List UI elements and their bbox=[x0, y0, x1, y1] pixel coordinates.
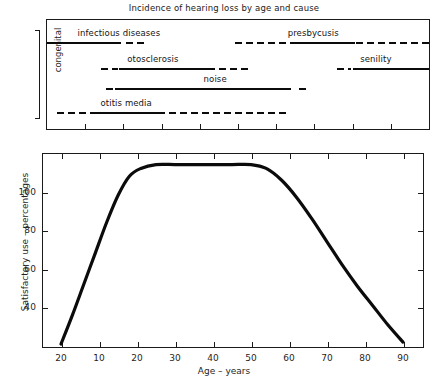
bottom-chart-x-tick-label: 70 bbox=[321, 353, 333, 363]
bottom-chart-satisfactory-use: Satisfactory use – percentages Age – yea… bbox=[0, 142, 448, 388]
bottom-chart-x-tick-label: 50 bbox=[245, 353, 257, 363]
bottom-chart-x-axis-label: Age – years bbox=[0, 366, 448, 376]
band-segment-dashed bbox=[169, 112, 289, 114]
top-chart-x-tick bbox=[314, 124, 315, 129]
top-chart-plot-frame: infectious diseasespresbycusisotoscleros… bbox=[46, 19, 430, 130]
congenital-axis-cap-bottom bbox=[35, 118, 40, 119]
bottom-chart-x-tick-label: 20 bbox=[55, 353, 67, 363]
band-label-senility: senility bbox=[360, 54, 391, 64]
bottom-chart-x-tick-label: 90 bbox=[397, 353, 409, 363]
band-segment-dashed bbox=[235, 42, 295, 44]
bottom-chart-x-tick-label: 40 bbox=[207, 353, 219, 363]
band-segment-solid bbox=[47, 42, 121, 44]
bottom-chart-y-tick-label: 40 bbox=[24, 302, 36, 312]
congenital-axis-cap-top bbox=[35, 30, 40, 31]
top-chart-x-tick bbox=[200, 124, 201, 129]
band-segment-dashed bbox=[101, 68, 118, 70]
band-label-otitis-media: otitis media bbox=[100, 98, 151, 108]
band-label-noise: noise bbox=[204, 74, 227, 84]
band-segment-dashed bbox=[106, 88, 113, 90]
top-chart-x-tick bbox=[162, 124, 163, 129]
band-segment-dashed bbox=[299, 88, 307, 90]
top-chart-x-tick bbox=[85, 124, 86, 129]
top-chart-x-tick bbox=[391, 124, 392, 129]
bottom-chart-y-tick-label: 100 bbox=[19, 187, 36, 197]
bottom-chart-y-tick-label: 60 bbox=[24, 264, 36, 274]
band-segment-solid bbox=[295, 42, 355, 44]
top-chart-x-tick bbox=[353, 124, 354, 129]
band-segment-solid bbox=[353, 68, 429, 70]
bottom-chart-x-tick-label: 80 bbox=[359, 353, 371, 363]
top-chart-incidence: congenital infectious diseasespresbycusi… bbox=[0, 0, 448, 142]
band-label-presbycusis: presbycusis bbox=[288, 28, 339, 38]
congenital-axis-rule bbox=[39, 30, 40, 118]
top-chart-x-tick bbox=[238, 124, 239, 129]
bottom-chart-x-tick-label: 30 bbox=[169, 353, 181, 363]
band-segment-solid bbox=[115, 88, 291, 90]
top-chart-x-tick bbox=[123, 124, 124, 129]
band-segment-dashed bbox=[337, 68, 351, 70]
bottom-chart-x-tick-label: 20 bbox=[131, 353, 143, 363]
band-segment-dashed bbox=[126, 42, 145, 44]
satisfactory-use-curve bbox=[42, 153, 424, 348]
band-label-infectious-diseases: infectious diseases bbox=[78, 28, 161, 38]
band-segment-solid bbox=[119, 68, 215, 70]
band-segment-dashed bbox=[57, 112, 89, 114]
bottom-chart-x-tick-label: 60 bbox=[283, 353, 295, 363]
bottom-chart-x-tick-label: 10 bbox=[93, 353, 105, 363]
band-segment-dashed bbox=[356, 42, 429, 44]
band-segment-solid bbox=[90, 112, 166, 114]
figure-page: Incidence of hearing loss by age and cau… bbox=[0, 0, 448, 388]
band-segment-dashed bbox=[219, 68, 251, 70]
bottom-chart-y-tick-label: 80 bbox=[24, 225, 36, 235]
band-label-otosclerosis: otosclerosis bbox=[127, 54, 178, 64]
top-chart-x-tick bbox=[276, 124, 277, 129]
